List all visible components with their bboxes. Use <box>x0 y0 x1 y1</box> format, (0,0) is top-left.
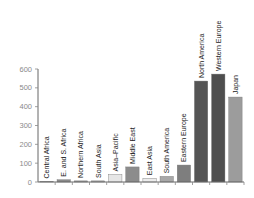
bar <box>143 178 156 182</box>
y-tick-label: 600 <box>19 65 32 74</box>
bar <box>160 176 173 182</box>
category-label: Asia–Pacific <box>112 133 119 172</box>
y-tick-label: 400 <box>19 102 32 111</box>
x-axis <box>38 182 244 185</box>
bar <box>194 81 207 182</box>
category-label: East Asia <box>146 146 153 175</box>
bars: Central AfricaE. and S. AfricaNorthern A… <box>40 21 242 182</box>
category-label: Japan <box>232 75 240 94</box>
y-tick-label: 100 <box>19 159 32 168</box>
y-tick-label: 0 <box>28 178 32 187</box>
y-tick-label: 300 <box>19 121 32 130</box>
category-label: E. and S. Africa <box>60 128 67 176</box>
bar <box>212 74 225 182</box>
y-tick-label: 200 <box>19 140 32 149</box>
bar-chart: 0100200300400500600 Central AfricaE. and… <box>0 0 254 198</box>
category-label: Western Europe <box>215 21 223 72</box>
bar <box>229 97 242 182</box>
category-label: North America <box>198 34 205 78</box>
category-label: South Asia <box>95 144 102 178</box>
bar <box>177 165 190 182</box>
category-label: Northern Africa <box>77 131 84 178</box>
category-label: Middle East <box>129 127 136 164</box>
category-label: Eastern Europe <box>180 113 188 162</box>
y-axis: 0100200300400500600 <box>19 65 38 187</box>
y-tick-label: 500 <box>19 83 32 92</box>
bar <box>109 174 122 182</box>
category-label: Central Africa <box>43 136 50 178</box>
category-label: South America <box>163 128 170 174</box>
bar <box>126 167 139 182</box>
